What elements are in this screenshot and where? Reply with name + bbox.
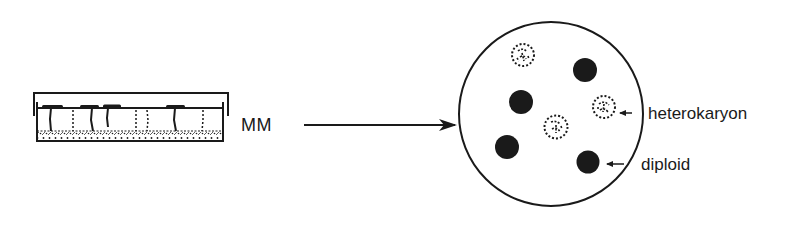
stab-dotted — [147, 110, 148, 131]
stab-solid — [174, 108, 176, 131]
diploid-colony — [573, 58, 597, 82]
stab-dotted — [202, 110, 203, 131]
petri-dish-outline — [459, 22, 643, 206]
diploid-colony — [577, 151, 600, 174]
stab-solid — [107, 108, 108, 127]
petri-lid — [34, 93, 228, 116]
diploid-colony — [509, 90, 533, 114]
stab-solid — [50, 108, 51, 131]
stab-solid — [91, 108, 93, 131]
heterokaryon-colony — [593, 96, 615, 118]
heterokaryon-colony — [545, 116, 568, 139]
heterokaryon-colony — [512, 44, 534, 66]
source-plate-side-view — [34, 93, 228, 141]
heterokaryon-label: heterokaryon — [648, 105, 747, 122]
medium-label-mm: MM — [241, 116, 272, 134]
diploid-colonies — [495, 58, 600, 174]
diploid-label: diploid — [641, 156, 690, 173]
tab — [42, 105, 63, 109]
stab-lines — [50, 108, 203, 131]
result-plate-top-view — [459, 22, 643, 206]
tab — [80, 105, 99, 109]
tab — [103, 105, 121, 110]
heterokaryon-colonies — [512, 44, 615, 139]
diploid-colony — [495, 135, 519, 159]
agar-bottom-layer — [38, 131, 222, 140]
